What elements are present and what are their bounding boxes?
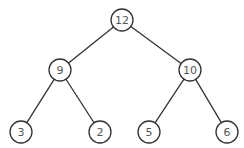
tree-node-5: 5	[138, 121, 160, 143]
tree-node-2: 2	[89, 121, 111, 143]
node-label: 5	[146, 126, 153, 139]
tree-node-9: 9	[49, 59, 71, 81]
tree-node-12: 12	[111, 9, 133, 31]
tree-edge-n10-n6	[196, 79, 222, 122]
node-label: 3	[18, 126, 25, 139]
tree-node-10: 10	[179, 59, 201, 81]
binary-tree-diagram: 129103256	[0, 0, 244, 148]
tree-node-3: 3	[10, 121, 32, 143]
tree-edge-n10-n5	[155, 79, 184, 123]
tree-edge-n12-n10	[131, 27, 181, 64]
tree-edge-n9-n2	[66, 79, 94, 123]
tree-edge-n12-n9	[69, 27, 114, 63]
node-label: 10	[183, 64, 197, 77]
node-label: 6	[224, 126, 231, 139]
node-label: 12	[115, 14, 129, 27]
tree-edge-n9-n3	[27, 79, 54, 122]
node-label: 9	[57, 64, 64, 77]
node-label: 2	[97, 126, 104, 139]
tree-node-6: 6	[216, 121, 238, 143]
tree-nodes: 129103256	[10, 9, 238, 143]
